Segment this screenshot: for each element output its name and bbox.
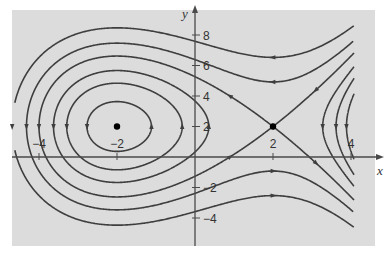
x-axis-arrow-icon [376, 154, 384, 160]
x-tick-label: 2 [270, 137, 277, 151]
phase-portrait-chart: x y −4−2248642−2−4 [0, 0, 391, 259]
x-axis-label: x [376, 163, 383, 178]
y-tick-label: −2 [203, 181, 217, 195]
y-axis-label: y [180, 6, 188, 21]
y-tick-label: −4 [203, 212, 217, 226]
y-axis-arrow-icon [192, 5, 198, 13]
x-tick-label: −2 [110, 137, 124, 151]
saddle-point [270, 123, 276, 129]
y-tick-label: 8 [203, 29, 210, 43]
y-tick-label: 2 [203, 120, 210, 134]
y-tick-label: 4 [203, 90, 210, 104]
x-tick-label: 4 [348, 137, 355, 151]
center-point [114, 123, 120, 129]
x-tick-label: −4 [32, 137, 46, 151]
y-tick-label: 6 [203, 59, 210, 73]
